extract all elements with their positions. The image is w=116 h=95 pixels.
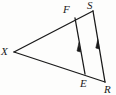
segment-xs: [14, 11, 93, 52]
geometry-canvas: [0, 0, 116, 95]
segment-fe: [75, 18, 85, 74]
vertex-label-s: S: [87, 0, 93, 11]
vertex-label-e: E: [80, 78, 87, 89]
vertex-label-r: R: [104, 84, 111, 95]
segment-xr: [14, 52, 105, 82]
parallel-arrow-icon-sr: [96, 40, 100, 50]
vertex-label-x: X: [1, 46, 8, 57]
vertex-label-f: F: [63, 4, 70, 15]
geometry-figure: X F S E R: [0, 0, 116, 95]
